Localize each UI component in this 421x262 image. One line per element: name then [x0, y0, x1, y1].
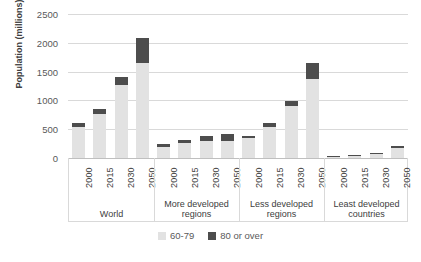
- x-tick-label-2030: 2030: [381, 167, 391, 188]
- group-label: Less developed regions: [239, 199, 324, 219]
- bar-segment-80-or-over[interactable]: [370, 153, 383, 154]
- bar-segment-60-79[interactable]: [200, 141, 213, 158]
- bar-stack[interactable]: [200, 136, 213, 158]
- legend-label: 60-79: [170, 230, 194, 241]
- group-label: Least developed countries: [324, 199, 409, 219]
- group-label: More developed regions: [154, 199, 239, 219]
- bar-segment-80-or-over[interactable]: [93, 109, 106, 114]
- bar-segment-80-or-over[interactable]: [72, 123, 85, 127]
- legend-item-2[interactable]: 80 or over: [208, 230, 263, 241]
- bar-stack[interactable]: [242, 136, 255, 158]
- x-tick-label-2000: 2000: [254, 167, 264, 188]
- bar-segment-60-79[interactable]: [136, 63, 149, 158]
- bar-segment-80-or-over[interactable]: [285, 101, 298, 106]
- x-tick-label-2030: 2030: [296, 167, 306, 188]
- bar-stack[interactable]: [285, 101, 298, 158]
- bar-segment-60-79[interactable]: [72, 127, 85, 158]
- bars-layer: [68, 14, 408, 158]
- group-separator: [324, 158, 325, 221]
- group-separator: [239, 158, 240, 221]
- bar-segment-60-79[interactable]: [115, 85, 128, 158]
- population-age-bar-chart: Population (millions) 050010001500200025…: [0, 0, 421, 262]
- y-tick-label: 1000: [37, 95, 58, 106]
- x-tick-label-2030: 2030: [211, 167, 221, 188]
- legend-swatch-icon: [208, 232, 216, 240]
- bar-stack[interactable]: [306, 63, 319, 158]
- x-tick-label-2000: 2000: [169, 167, 179, 188]
- bar-stack[interactable]: [221, 134, 234, 158]
- bar-stack[interactable]: [72, 123, 85, 158]
- bar-segment-60-79[interactable]: [263, 127, 276, 158]
- bar-segment-80-or-over[interactable]: [221, 134, 234, 141]
- bar-stack[interactable]: [263, 123, 276, 158]
- plot-area: [68, 14, 408, 158]
- x-tick-label-2015: 2015: [360, 167, 370, 188]
- bar-segment-80-or-over[interactable]: [115, 77, 128, 84]
- bar-segment-80-or-over[interactable]: [242, 136, 255, 138]
- chart-legend: 60-7980 or over: [0, 230, 421, 241]
- bar-segment-60-79[interactable]: [93, 114, 106, 158]
- bar-segment-80-or-over[interactable]: [391, 146, 404, 147]
- x-tick-label-2050: 2050: [402, 167, 412, 188]
- bar-segment-80-or-over[interactable]: [178, 140, 191, 143]
- legend-item-1[interactable]: 60-79: [158, 230, 194, 241]
- y-tick-label: 2500: [37, 9, 58, 20]
- legend-swatch-icon: [158, 232, 166, 240]
- y-tick-label: 500: [42, 124, 58, 135]
- bar-stack[interactable]: [391, 146, 404, 158]
- category-axis: World2000201520302050More developed regi…: [68, 158, 408, 222]
- bar-segment-80-or-over[interactable]: [306, 63, 319, 79]
- legend-label: 80 or over: [220, 230, 263, 241]
- bar-segment-60-79[interactable]: [221, 141, 234, 158]
- group-label: World: [69, 209, 154, 219]
- y-axis-tick-labels: 05001000150020002500: [14, 14, 64, 158]
- x-tick-label-2015: 2015: [190, 167, 200, 188]
- bar-segment-60-79[interactable]: [157, 147, 170, 158]
- x-tick-label-2000: 2000: [84, 167, 94, 188]
- bar-segment-80-or-over[interactable]: [136, 38, 149, 63]
- bar-stack[interactable]: [136, 38, 149, 158]
- y-tick-label: 1500: [37, 66, 58, 77]
- bar-stack[interactable]: [178, 140, 191, 158]
- bar-segment-80-or-over[interactable]: [200, 136, 213, 140]
- bar-stack[interactable]: [115, 77, 128, 158]
- y-tick-label: 0: [53, 153, 58, 164]
- bar-segment-80-or-over[interactable]: [157, 144, 170, 146]
- bar-stack[interactable]: [93, 109, 106, 158]
- bar-segment-80-or-over[interactable]: [263, 123, 276, 126]
- bar-segment-60-79[interactable]: [306, 79, 319, 158]
- bar-segment-60-79[interactable]: [242, 138, 255, 158]
- bar-segment-60-79[interactable]: [391, 148, 404, 158]
- bar-stack[interactable]: [157, 144, 170, 158]
- bar-segment-60-79[interactable]: [178, 143, 191, 158]
- x-tick-label-2030: 2030: [126, 167, 136, 188]
- x-tick-label-2015: 2015: [105, 167, 115, 188]
- x-tick-label-2015: 2015: [275, 167, 285, 188]
- group-separator: [154, 158, 155, 221]
- y-tick-label: 2000: [37, 37, 58, 48]
- bar-segment-60-79[interactable]: [285, 106, 298, 158]
- x-tick-label-2000: 2000: [339, 167, 349, 188]
